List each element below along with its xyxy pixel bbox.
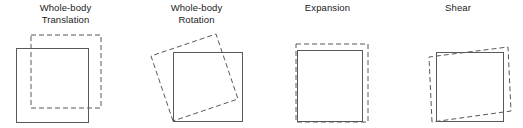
reference-square-translation xyxy=(17,49,89,123)
diagram-whole-body-rotation xyxy=(131,0,262,128)
panel-expansion: Expansion xyxy=(262,0,393,128)
transformed-square-rotation xyxy=(151,34,238,121)
reference-square-shear xyxy=(437,53,504,122)
panel-whole-body-rotation: Whole-body Rotation xyxy=(131,0,262,128)
diagram-expansion xyxy=(262,0,393,128)
panel-shear: Shear xyxy=(393,0,523,128)
reference-square-rotation xyxy=(174,53,243,122)
transformed-square-translation xyxy=(31,35,101,108)
diagram-whole-body-translation xyxy=(0,0,131,128)
deformation-modes-figure: Whole-body Translation Whole-body Rotati… xyxy=(0,0,523,128)
diagram-shear xyxy=(393,0,523,128)
transformed-quad-shear xyxy=(429,47,511,122)
transformed-square-expansion xyxy=(296,44,368,122)
panel-whole-body-translation: Whole-body Translation xyxy=(0,0,131,128)
reference-square-expansion xyxy=(298,51,363,122)
